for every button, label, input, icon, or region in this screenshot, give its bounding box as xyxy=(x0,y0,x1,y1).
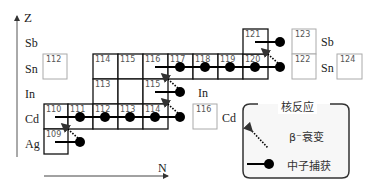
n-axis-label: N xyxy=(158,162,167,174)
element-label-sb: Sb xyxy=(25,37,38,49)
element-label-sb-right: Sb xyxy=(321,36,334,48)
svg-text:124: 124 xyxy=(340,55,355,64)
legend-neutron-capture-label: 中子捕获 xyxy=(287,157,331,173)
element-label-sn-right: Sn xyxy=(321,62,334,74)
element-label-cd-right: Cd xyxy=(222,112,236,124)
element-label-sn: Sn xyxy=(25,63,38,75)
svg-text:116: 116 xyxy=(145,55,160,64)
svg-text:113: 113 xyxy=(95,80,110,89)
z-axis-label: Z xyxy=(24,11,32,24)
svg-text:110: 110 xyxy=(46,105,61,114)
s-process-diagram: 112 123 122 124 116 114 115 116 117 118 … xyxy=(0,0,372,193)
element-label-cd: Cd xyxy=(25,113,39,125)
svg-text:121: 121 xyxy=(245,30,260,39)
svg-text:109: 109 xyxy=(46,130,61,139)
svg-text:116: 116 xyxy=(196,105,211,114)
svg-text:122: 122 xyxy=(295,55,310,64)
element-label-ag: Ag xyxy=(25,138,40,150)
svg-text:123: 123 xyxy=(295,30,310,39)
legend-capture-dot-icon xyxy=(264,159,274,169)
svg-text:115: 115 xyxy=(120,55,135,64)
legend-beta-decay-label: β⁻衰变 xyxy=(289,128,324,144)
element-label-in: In xyxy=(25,88,35,100)
svg-text:114: 114 xyxy=(95,55,110,64)
svg-text:115: 115 xyxy=(145,80,160,89)
element-label-in-right: In xyxy=(198,87,208,99)
legend-title: 核反应 xyxy=(278,98,317,114)
nuclide-in-empty xyxy=(118,79,143,104)
svg-text:112: 112 xyxy=(46,55,61,64)
